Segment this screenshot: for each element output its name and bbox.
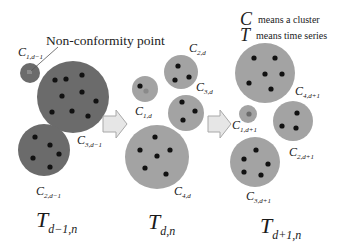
cluster-c3-d-minus-1 (37, 61, 109, 133)
cluster-c2-d-plus-1 (273, 101, 313, 141)
time-series-label: Td−1,n (36, 207, 77, 237)
legend-c-text: means a cluster (258, 14, 320, 25)
panel-t-d-minus-1 (18, 47, 109, 176)
cluster-label: C1,d (135, 104, 152, 120)
legend-time-series: Tmeans time series (240, 25, 327, 46)
cluster-label: C1,d+1 (232, 118, 257, 134)
cluster-label: C2,d−1 (36, 184, 61, 200)
cluster-label: C4,d (174, 184, 191, 200)
time-series-label: Td,n (148, 209, 175, 239)
cluster-c3-d-plus-1 (230, 137, 280, 187)
arrow-right-icon (103, 110, 127, 138)
cluster-label: C3,d−1 (77, 133, 102, 149)
panel-t-d-plus-1 (230, 43, 313, 187)
arrow-right-icon (208, 110, 231, 138)
legend-t-text: means time series (256, 30, 327, 41)
cluster-c2-d-minus-1 (18, 124, 70, 176)
cluster-label: C3,d+1 (246, 189, 271, 205)
cluster-label: C3,d (196, 80, 213, 96)
time-series-label: Td+1,n (260, 213, 301, 243)
cluster-label: C4,d+1 (295, 84, 320, 100)
non-conformity-label: Non-conformity point (46, 33, 165, 49)
panel-t-d (125, 55, 204, 189)
cluster-label: C2,d+1 (289, 145, 314, 161)
cluster-c2-d (164, 55, 198, 89)
legend-t-symbol: T (240, 25, 250, 45)
cluster-label: C1,d−1 (18, 45, 43, 61)
cluster-c3-d (168, 95, 204, 131)
cluster-label: C2,d (189, 41, 206, 57)
